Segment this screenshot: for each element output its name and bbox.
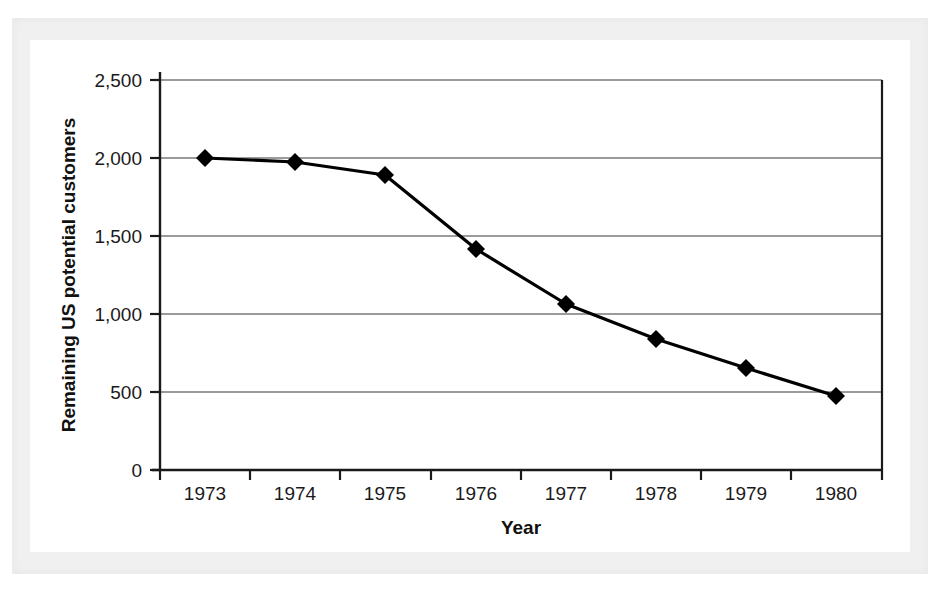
data-point-1973 [196,149,214,167]
x-tick-label-1980: 1980 [815,483,857,504]
x-axis-title: Year [501,517,542,538]
data-point-1977 [557,295,575,313]
x-tick-label-1978: 1978 [635,483,677,504]
y-tick-label-500: 500 [110,382,142,403]
chart-canvas: 2,500 2,000 1,500 1,000 500 0 1973 1974 … [0,0,948,609]
gridlines [160,80,882,392]
data-point-1978 [647,330,665,348]
data-point-1974 [286,153,304,171]
figure-root: 2,500 2,000 1,500 1,000 500 0 1973 1974 … [0,0,948,609]
x-tick-label-1977: 1977 [545,483,587,504]
y-tick-marks [150,80,160,470]
x-tick-label-1979: 1979 [725,483,767,504]
x-tick-label-1976: 1976 [455,483,497,504]
y-tick-label-1000: 1,000 [94,304,142,325]
line-chart: 2,500 2,000 1,500 1,000 500 0 1973 1974 … [0,0,948,609]
y-tick-label-2500: 2,500 [94,70,142,91]
y-tick-label-0: 0 [131,460,142,481]
x-tick-label-1974: 1974 [274,483,317,504]
y-tick-label-1500: 1,500 [94,226,142,247]
x-tick-label-1973: 1973 [184,483,226,504]
x-tick-marks [160,470,882,480]
y-tick-label-2000: 2,000 [94,148,142,169]
y-axis-title: Remaining US potential customers [58,118,79,433]
data-point-1980 [827,387,845,405]
series-line [205,158,836,396]
data-point-1979 [737,359,755,377]
x-tick-label-1975: 1975 [364,483,406,504]
